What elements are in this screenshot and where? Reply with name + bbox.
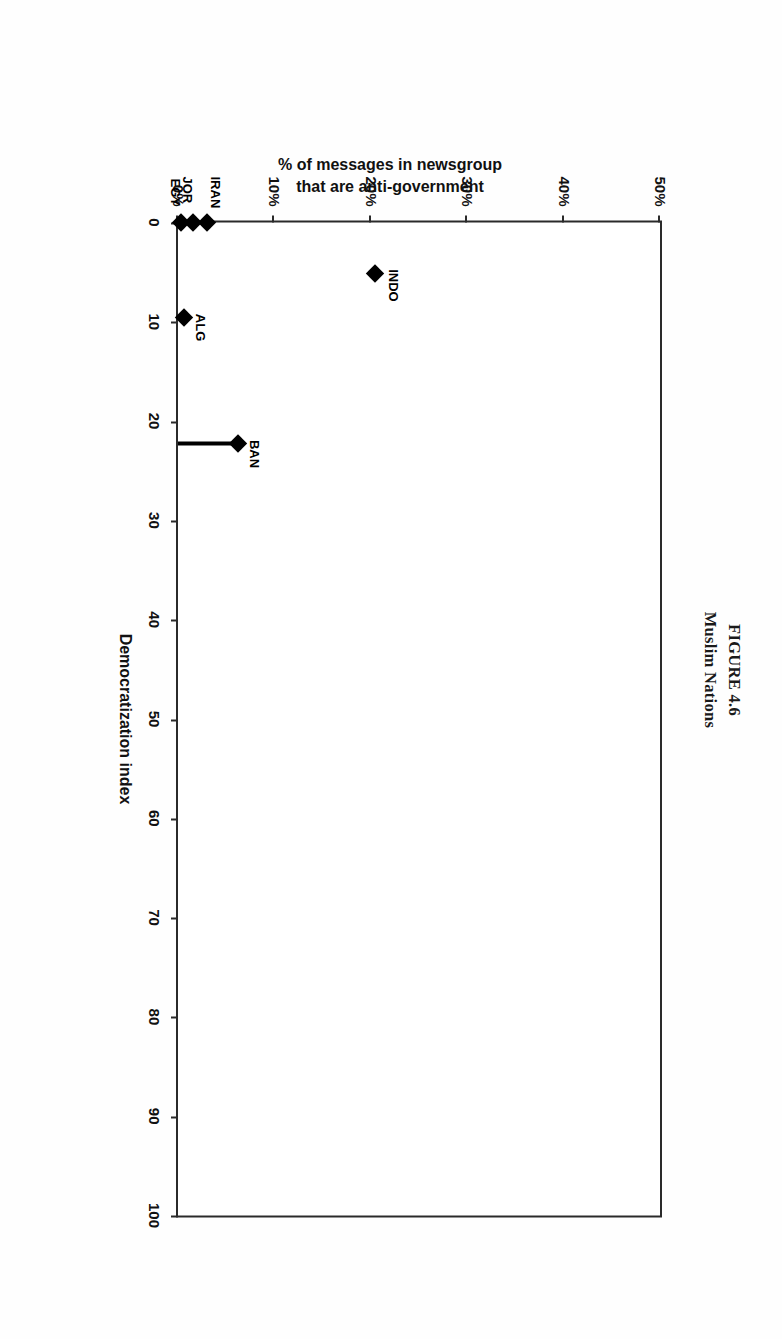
figure-number: FIGURE 4.6 [722,0,746,1339]
y-axis-tick [658,215,660,222]
y-axis-title-line1: % of messages in newsgroup [225,153,555,175]
x-axis-tick [171,818,178,820]
x-axis-tick [171,719,178,721]
rotated-figure-container: FIGURE 4.6 Muslim Nations % of messages … [0,0,782,1339]
y-axis-tick-label: 20% [362,176,379,206]
data-point-label: BAN [247,439,262,467]
data-point-label: JOR [180,176,195,203]
data-point-label: IRAN [208,176,223,208]
x-axis-tick-label: 0 [146,218,163,226]
data-point-marker [198,213,216,231]
x-axis-tick [171,619,178,621]
y-axis-tick [369,215,371,222]
x-axis-tick-label: 40 [146,611,163,628]
y-axis-tick [272,215,274,222]
y-axis-tick-label: 30% [459,176,476,206]
data-point-marker [229,434,247,452]
x-axis-tick [171,1116,178,1118]
figure-title: FIGURE 4.6 Muslim Nations [698,0,746,1339]
y-axis-tick-label: 10% [266,176,283,206]
y-axis-tick-label: 40% [555,176,572,206]
x-axis-tick-label: 50 [146,710,163,727]
x-axis-tick [171,917,178,919]
x-axis-tick-label: 60 [146,809,163,826]
data-point-label: INDO [386,269,401,302]
y-axis-tick [465,215,467,222]
x-axis-title: Democratization index [116,220,134,1217]
chart: % of messages in newsgroup that are anti… [110,128,670,1223]
x-axis-tick [171,421,178,423]
x-axis-tick-label: 10 [146,313,163,330]
plot-area: 01020304050607080901000%10%20%30%40%50%E… [178,222,660,1215]
y-axis-tick-label: 50% [652,176,669,206]
x-axis-tick [171,1016,178,1018]
x-axis-tick-label: 80 [146,1008,163,1025]
data-point-label: ALG [193,313,208,340]
x-axis-tick [171,321,178,323]
x-axis-tick [171,520,178,522]
x-axis-tick-label: 100 [146,1202,163,1227]
x-axis-tick-label: 90 [146,1107,163,1124]
plot-frame: 01020304050607080901000%10%20%30%40%50%E… [176,220,662,1217]
x-axis-tick [171,1215,178,1217]
x-axis-tick-label: 70 [146,909,163,926]
x-axis-tick-label: 30 [146,512,163,529]
x-axis-tick-label: 20 [146,412,163,429]
y-axis-tick [562,215,564,222]
figure-caption: Muslim Nations [698,0,722,1339]
data-point-marker [365,263,383,281]
scanned-page: FIGURE 4.6 Muslim Nations % of messages … [0,0,782,1339]
